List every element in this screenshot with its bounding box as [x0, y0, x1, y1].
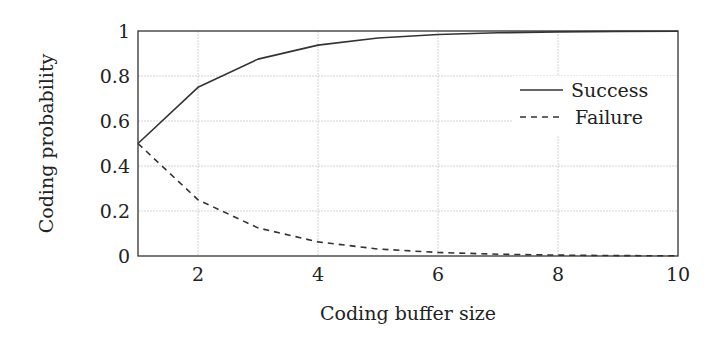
line-chart: 246810 00.20.40.60.81 Coding buffer size…	[0, 0, 723, 343]
legend: Success Failure	[512, 76, 677, 136]
y-axis-ticks: 00.20.40.60.81	[100, 20, 130, 267]
x-tick-label: 10	[666, 263, 690, 285]
y-axis-title: Coding probability	[35, 53, 57, 233]
y-tick-label: 0	[118, 245, 130, 267]
y-tick-label: 0.8	[100, 65, 130, 87]
plot-frame	[138, 31, 678, 256]
x-tick-label: 6	[432, 263, 444, 285]
legend-label-success: Success	[571, 79, 648, 101]
y-tick-label: 0.2	[100, 200, 130, 222]
x-tick-label: 8	[552, 263, 564, 285]
y-tick-label: 0.6	[100, 110, 130, 132]
y-tick-label: 0.4	[100, 155, 130, 177]
y-tick-label: 1	[118, 20, 130, 42]
x-tick-label: 4	[312, 263, 324, 285]
x-axis-ticks: 246810	[192, 263, 690, 285]
x-tick-label: 2	[192, 263, 204, 285]
series-line-failure	[138, 144, 678, 256]
x-axis-title: Coding buffer size	[320, 302, 496, 324]
grid-lines	[138, 31, 678, 256]
series-lines	[138, 31, 678, 256]
legend-label-failure: Failure	[575, 106, 643, 128]
